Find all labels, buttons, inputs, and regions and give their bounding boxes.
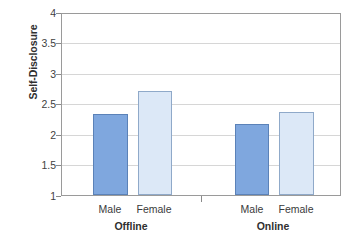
x-tick-label-offline-female: Female (124, 203, 184, 215)
y-tick-label-3: 3 (32, 69, 56, 79)
y-tick-label-2-5: 2.5 (32, 99, 56, 109)
x-group-label-offline: Offline (101, 220, 161, 232)
x-tick-label-online-female: Female (266, 203, 326, 215)
bar-offline-female[interactable] (138, 91, 172, 195)
gridline-3 (62, 74, 340, 75)
bar-chart: Self-Disclosure 4 3.5 3 2.5 2 1.5 1 Male… (0, 0, 357, 243)
bar-online-male[interactable] (235, 124, 269, 195)
bar-online-female[interactable] (279, 112, 314, 195)
y-axis-tick-labels: 4 3.5 3 2.5 2 1.5 1 (31, 0, 56, 243)
gridline-3-5 (62, 43, 340, 44)
y-tick-label-4: 4 (32, 8, 56, 18)
plot-area (61, 13, 341, 196)
y-tick-label-1: 1 (32, 191, 56, 201)
x-axis-group-separator-tick (201, 196, 202, 202)
y-tick-mark-1 (56, 196, 61, 197)
y-tick-label-3-5: 3.5 (32, 38, 56, 48)
y-tick-label-1-5: 1.5 (32, 160, 56, 170)
y-tick-label-2: 2 (32, 130, 56, 140)
bar-offline-male[interactable] (93, 114, 128, 195)
gridline-2-5 (62, 104, 340, 105)
x-group-label-online: Online (243, 220, 303, 232)
